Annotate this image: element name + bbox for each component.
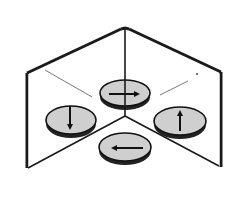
image-coin-right — [154, 107, 206, 139]
object-coin — [99, 133, 151, 165]
diagram-canvas — [0, 0, 232, 198]
mirror-diagram: Two plane mirrors hinged at a right angl… — [0, 0, 232, 198]
reflection-line-right — [160, 81, 188, 95]
image-coin-left — [46, 106, 96, 138]
reflection-line-left — [45, 70, 92, 97]
hinge-apex — [121, 28, 129, 29]
mirror-speck — [196, 73, 198, 75]
